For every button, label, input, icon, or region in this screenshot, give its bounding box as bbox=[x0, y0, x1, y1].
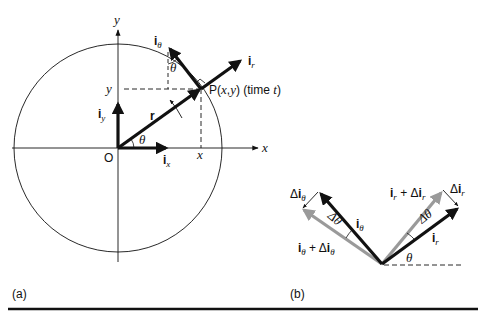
y-axis-label: y bbox=[112, 12, 120, 27]
x-axis-label: x bbox=[261, 140, 268, 155]
theta-label-b: θ bbox=[406, 250, 413, 265]
i-theta-label-b: iθ bbox=[356, 217, 364, 233]
i-x-label: ix bbox=[163, 153, 170, 169]
r-label: r bbox=[150, 109, 155, 123]
i-y-label: iy bbox=[98, 107, 105, 123]
panel-b-label: (b) bbox=[290, 287, 305, 301]
theta-label-itheta: θ bbox=[170, 60, 177, 75]
i-r-plus-delta-label: ir + Δir bbox=[390, 186, 426, 202]
i-r-label: ir bbox=[248, 54, 255, 70]
panel-a: y x O y x r θ θ iθ ir iy ix P(x,y) (time… bbox=[12, 12, 281, 301]
i-theta-label: iθ bbox=[154, 34, 162, 50]
delta-theta-arc-r bbox=[407, 233, 415, 240]
point-p-label: P(x,y) (time t) bbox=[209, 82, 281, 97]
delta-i-r-label: Δir bbox=[450, 182, 465, 198]
x-tick-label: x bbox=[196, 147, 203, 162]
panel-a-label: (a) bbox=[12, 287, 27, 301]
delta-i-theta-label: Δiθ bbox=[290, 187, 306, 203]
origin-label: O bbox=[104, 151, 113, 165]
theta-label-origin: θ bbox=[139, 132, 146, 147]
delta-theta-arc-theta bbox=[346, 230, 352, 238]
r-vector bbox=[118, 90, 199, 148]
panel-b: θ Δθ Δθ ir ir + Δir Δir iθ iθ + Δiθ Δiθ … bbox=[290, 182, 465, 301]
figure-canvas: y x O y x r θ θ iθ ir iy ix P(x,y) (time… bbox=[0, 0, 478, 316]
y-tick-label: y bbox=[104, 81, 112, 96]
i-theta-plus-delta-label: iθ + Δiθ bbox=[298, 241, 335, 257]
i-r-label-b: ir bbox=[432, 231, 439, 247]
